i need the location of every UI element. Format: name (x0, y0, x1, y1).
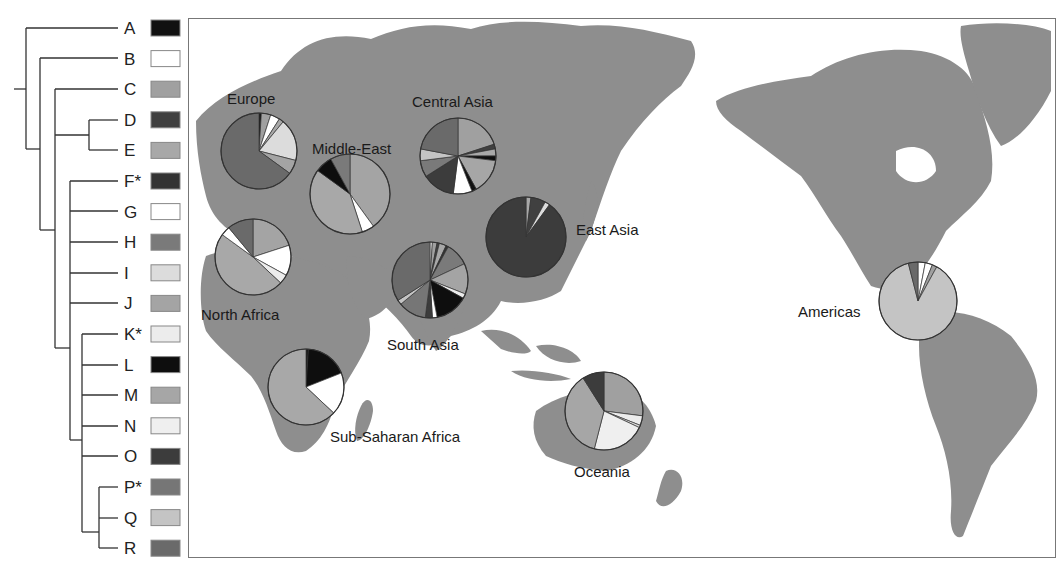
legend-swatch (151, 295, 180, 311)
legend-label: C (124, 80, 136, 99)
pie-middle-east (310, 154, 390, 234)
legend-label: E (124, 141, 135, 160)
legend-label: I (124, 264, 129, 283)
legend-swatch (151, 479, 180, 495)
pie-americas (879, 262, 957, 340)
pie-east-asia (486, 197, 566, 277)
label-sub-saharan-africa: Sub-Saharan Africa (330, 428, 461, 445)
label-middle-east: Middle-East (312, 140, 392, 157)
label-east-asia: East Asia (576, 221, 639, 238)
legend-swatch (151, 418, 180, 434)
south-america-landmass (919, 312, 1037, 537)
pie-south-asia (392, 242, 468, 318)
legend-label: Q (124, 509, 137, 528)
pie-europe (221, 113, 297, 189)
map-canvas: Europe Middle-East Central Asia East Asi… (189, 19, 1055, 557)
legend-label: H (124, 233, 136, 252)
legend-swatch (151, 326, 180, 342)
legend-list: ABCDEF*GHIJK*LMNOP*QR (124, 19, 180, 558)
legend-swatch (151, 142, 180, 158)
legend-label: B (124, 50, 135, 69)
north-america-landmass (716, 50, 992, 290)
legend-swatch (151, 448, 180, 464)
pie-slice (604, 372, 643, 416)
legend-label: L (124, 356, 133, 375)
legend-swatch (151, 81, 180, 97)
world-map: Europe Middle-East Central Asia East Asi… (188, 18, 1056, 558)
legend-swatch (151, 234, 180, 250)
phylogenetic-tree-legend: ABCDEF*GHIJK*LMNOP*QR (0, 0, 190, 571)
legend-swatch (151, 540, 180, 556)
legend-swatch (151, 387, 180, 403)
pie-oceania (565, 372, 643, 450)
label-oceania: Oceania (574, 463, 631, 480)
legend-label: J (124, 294, 133, 313)
label-americas: Americas (798, 303, 861, 320)
legend-label: M (124, 386, 138, 405)
legend-label: N (124, 417, 136, 436)
legend-swatch (151, 510, 180, 526)
southeast-asia-islands (481, 330, 581, 381)
legend-swatch (151, 112, 180, 128)
legend-swatch (151, 173, 180, 189)
legend-swatch (151, 20, 180, 36)
tree-branches (14, 28, 118, 548)
legend-label: K* (124, 325, 142, 344)
new-zealand-landmass (656, 470, 682, 507)
legend-label: R (124, 539, 136, 558)
legend-swatch (151, 357, 180, 373)
label-central-asia: Central Asia (412, 93, 494, 110)
legend-label: O (124, 447, 137, 466)
label-north-africa: North Africa (201, 306, 280, 323)
legend-label: G (124, 203, 137, 222)
pie-sub-saharan-africa (268, 349, 344, 425)
legend-label: P* (124, 478, 142, 497)
legend-label: D (124, 111, 136, 130)
legend-swatch (151, 51, 180, 67)
legend-label: A (124, 19, 136, 38)
pie-central-asia (420, 118, 496, 194)
legend-swatch (151, 265, 180, 281)
legend-label: F* (124, 172, 141, 191)
label-south-asia: South Asia (387, 336, 459, 353)
label-europe: Europe (227, 90, 275, 107)
pie-north-africa (215, 219, 291, 295)
legend-swatch (151, 204, 180, 220)
